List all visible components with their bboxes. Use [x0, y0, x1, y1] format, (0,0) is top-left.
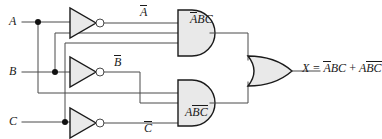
label-and-bot-a: A	[185, 105, 192, 119]
label-x-t2-bc: BC	[366, 62, 381, 74]
label-x-plus: +	[349, 61, 356, 75]
not-gate-b-bubble	[96, 68, 104, 76]
label-and-top-a: A	[190, 13, 197, 25]
not-gate-a-bubble	[96, 19, 104, 27]
label-input-b: B	[9, 65, 16, 77]
not-gate-c-triangle	[70, 108, 96, 138]
wire-and-top-out	[210, 33, 248, 60]
junction-dot-b	[52, 69, 58, 75]
label-x-t1-a: A	[323, 62, 330, 74]
not-gate-b-triangle	[70, 57, 96, 87]
wire-bus-c-up	[65, 43, 178, 122]
label-output-expression: X =ABC+ABC	[302, 62, 382, 74]
not-gate-c-bubble	[96, 119, 104, 127]
label-not-b-text: B	[114, 56, 121, 68]
junction-dot-a	[35, 19, 41, 25]
label-not-a: A	[140, 6, 147, 18]
or-gate-output	[248, 56, 292, 86]
junction-dot-c	[62, 119, 68, 125]
wire-and-bottom-out	[210, 82, 248, 103]
label-and-bottom-output: ABC	[185, 106, 208, 118]
label-x-t1-bc: BC	[331, 61, 346, 75]
label-not-c: C	[144, 122, 152, 134]
label-not-a-text: A	[140, 6, 147, 18]
label-not-c-text: C	[144, 122, 152, 134]
label-not-b: B	[114, 56, 121, 68]
label-and-top-output: ABC	[190, 13, 213, 25]
label-and-bot-bc: BC	[192, 106, 207, 118]
wire-not-b-out	[104, 72, 178, 103]
label-x-prefix: X =	[302, 61, 320, 75]
label-input-a: A	[9, 15, 16, 27]
label-and-top-bc: BC	[197, 12, 212, 26]
label-x-t2-a: A	[359, 61, 366, 75]
and-gate-bottom	[178, 80, 215, 126]
label-input-c: C	[9, 115, 17, 127]
